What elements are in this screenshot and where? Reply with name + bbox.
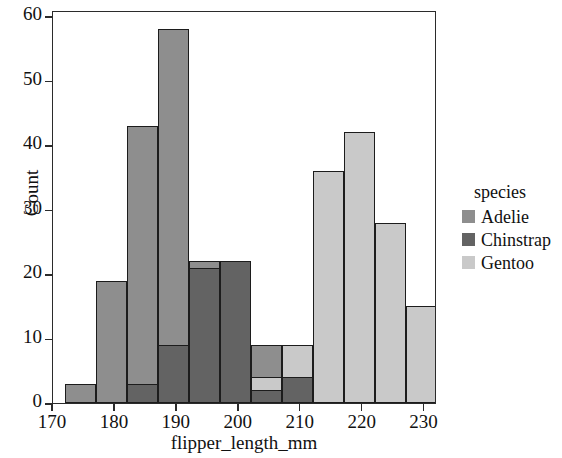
y-axis-tick-mark [45, 274, 52, 276]
legend-title: species [474, 181, 562, 203]
x-axis-tick-mark [113, 404, 115, 411]
x-axis-tick-label: 200 [208, 411, 268, 433]
legend-swatch-icon [462, 233, 475, 246]
histogram-bar [344, 132, 375, 403]
histogram-bar [282, 377, 313, 403]
legend-swatch-icon [462, 210, 475, 223]
x-axis-tick-mark [237, 404, 239, 411]
histogram-bar [375, 223, 406, 403]
x-axis-tick-mark [175, 404, 177, 411]
legend-item-label: Gentoo [481, 253, 534, 273]
y-axis-tick-label: 60 [23, 4, 42, 23]
histogram-bar [313, 171, 344, 403]
y-axis-tick-label: 50 [23, 69, 42, 88]
x-axis-tick-label: 220 [332, 411, 392, 433]
histogram-bar [158, 345, 189, 403]
x-axis-tick-mark [299, 404, 301, 411]
y-axis-tick-mark [45, 210, 52, 212]
legend-swatch-icon [462, 256, 475, 269]
histogram-bar [220, 261, 251, 403]
legend-entries: AdelieChinstrapGentoo [462, 205, 562, 274]
histogram-bar [251, 390, 282, 403]
x-axis-tick-label: 210 [270, 411, 330, 433]
x-axis-tick-mark [361, 404, 363, 411]
histogram-figure: 0102030405060 Count 17018019020021022023… [0, 0, 562, 458]
x-axis-tick-mark [51, 404, 53, 411]
y-axis-tick-mark [45, 16, 52, 18]
legend-item-label: Chinstrap [481, 230, 551, 250]
x-axis-tick-label: 230 [394, 411, 454, 433]
x-axis-tick-label: 170 [22, 411, 82, 433]
histogram-bar [127, 126, 158, 403]
histogram-bar [189, 268, 220, 403]
histogram-bar [65, 384, 96, 403]
histogram-bar [406, 306, 435, 403]
x-axis-tick-label: 180 [84, 411, 144, 433]
histogram-bar [127, 384, 158, 403]
legend-item-chinstrap: Chinstrap [462, 228, 562, 251]
histogram-bar [96, 281, 127, 403]
y-axis-title: Count [21, 133, 43, 253]
legend-item-adelie: Adelie [462, 205, 562, 228]
x-axis-tick-label: 190 [146, 411, 206, 433]
x-axis-tick-mark [423, 404, 425, 411]
legend-item-label: Adelie [481, 207, 529, 227]
y-axis-tick-mark [45, 145, 52, 147]
legend: species AdelieChinstrapGentoo [462, 181, 562, 274]
histogram-bars [53, 12, 435, 403]
y-axis-tick-label: 10 [23, 327, 42, 346]
y-axis-tick-mark [45, 81, 52, 83]
legend-item-gentoo: Gentoo [462, 251, 562, 274]
y-axis-tick-mark [45, 339, 52, 341]
y-axis-tick-label: 20 [23, 262, 42, 281]
plot-area [52, 11, 436, 404]
x-axis-title: flipper_length_mm [52, 432, 436, 454]
